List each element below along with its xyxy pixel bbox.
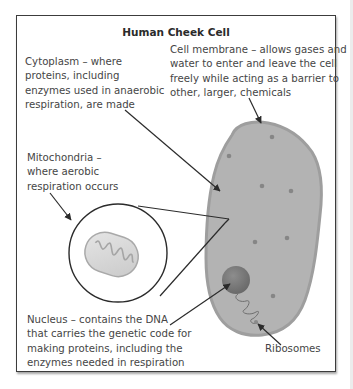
- label-nucleus: Nucleus – contains the DNA that carries …: [27, 313, 192, 370]
- label-mitochondria: Mitochondria – where aerobic respiration…: [27, 151, 118, 194]
- mitochondria-magnified: [69, 204, 167, 302]
- label-cytoplasm: Cytoplasm – where proteins, including en…: [25, 55, 164, 112]
- label-cell-membrane: Cell membrane – allows gases and water t…: [170, 43, 347, 100]
- nucleus: [222, 266, 250, 294]
- label-ribosomes: Ribosomes: [265, 342, 321, 356]
- ribosome: [254, 320, 258, 324]
- cell-body: [206, 122, 321, 335]
- membrane-arrow: [249, 98, 261, 123]
- cytoplasm-arrow: [125, 110, 220, 191]
- mitochondria-arrow: [50, 193, 71, 220]
